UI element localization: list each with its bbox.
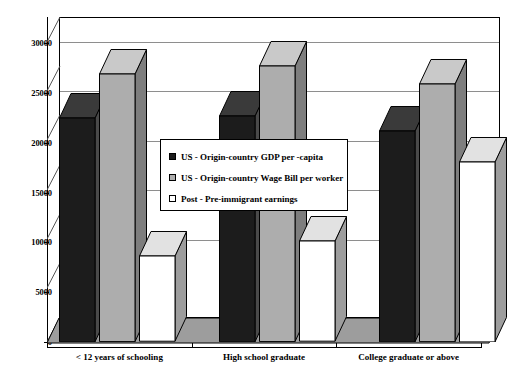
x-category-label-0: < 12 years of schooling	[47, 352, 192, 362]
x-tick-mark-0	[47, 343, 48, 348]
legend-label-1: US - Origin-country Wage Bill per worker	[181, 173, 343, 183]
legend-item-0[interactable]: US - Origin-country GDP per -capita	[169, 146, 347, 167]
bar-2-2[interactable]	[459, 137, 507, 342]
legend-item-1[interactable]: US - Origin-country Wage Bill per worker	[169, 167, 347, 188]
bar-shape-1-2	[299, 216, 347, 342]
bar-shape-0-2	[139, 231, 187, 342]
y-tick-5000: 5000	[0, 288, 52, 296]
x-tick-mark-1	[192, 343, 193, 348]
legend-label-2: Post - Pre-immigrant earnings	[181, 194, 298, 204]
legend-item-2[interactable]: Post - Pre-immigrant earnings	[169, 188, 347, 209]
bar-shape-2-2	[459, 137, 507, 342]
chart-container: 300002500020000150001000050000 US - Orig…	[0, 0, 523, 371]
y-tick-10000: 10000	[0, 238, 52, 246]
y-tick-30000: 30000	[0, 39, 52, 47]
y-tick-15000: 15000	[0, 189, 52, 197]
bar-0-2[interactable]	[139, 231, 187, 342]
y-tick-0: 0	[0, 338, 52, 346]
bar-1-2[interactable]	[299, 216, 347, 342]
x-axis-line	[47, 347, 481, 348]
y-tick-25000: 25000	[0, 89, 52, 97]
white-swatch-icon	[169, 195, 176, 202]
gray-swatch-icon	[169, 174, 176, 181]
x-category-label-2: College graduate or above	[336, 352, 481, 362]
x-category-label-1: High school graduate	[192, 352, 337, 362]
x-tick-mark-2	[336, 343, 337, 348]
y-tick-20000: 20000	[0, 139, 52, 147]
legend-label-0: US - Origin-country GDP per -capita	[181, 152, 323, 162]
dark-swatch-icon	[169, 153, 176, 160]
x-tick-mark-3	[481, 343, 482, 348]
chart-legend: US - Origin-country GDP per -capita US -…	[160, 139, 348, 211]
